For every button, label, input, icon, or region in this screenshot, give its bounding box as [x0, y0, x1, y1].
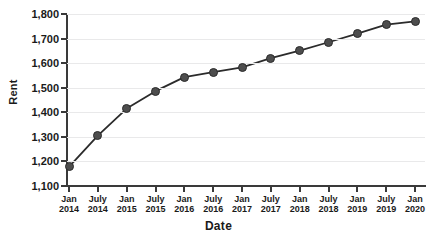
x-tick-mark: [68, 187, 70, 192]
x-axis-title: Date: [0, 219, 437, 233]
x-tick-mark: [270, 187, 272, 192]
x-tick-label: Jan2020: [393, 194, 437, 214]
y-tick-label: 1,300: [13, 131, 59, 143]
x-tick-mark: [328, 187, 330, 192]
data-point-marker: [180, 73, 189, 82]
x-tick-mark: [356, 187, 358, 192]
data-point-marker: [353, 29, 362, 38]
data-point-marker: [151, 87, 160, 96]
y-tick-label: 1,100: [13, 180, 59, 192]
gridline: [67, 39, 425, 40]
data-point-marker: [411, 17, 420, 26]
rent-over-time-line-chart: Rent 1,1001,2001,3001,4001,5001,6001,700…: [0, 0, 437, 240]
x-tick-mark: [97, 187, 99, 192]
y-tick-label: 1,200: [13, 155, 59, 167]
data-point-marker: [209, 68, 218, 77]
y-tick-mark: [61, 62, 67, 64]
x-tick-mark: [126, 187, 128, 192]
y-tick-mark: [61, 87, 67, 89]
gridline: [67, 161, 425, 162]
data-point-marker: [324, 38, 333, 47]
y-tick-mark: [61, 13, 67, 15]
y-tick-mark: [61, 185, 67, 187]
y-tick-mark: [61, 111, 67, 113]
data-point-marker: [65, 162, 74, 171]
gridline: [67, 14, 425, 15]
x-tick-mark: [414, 187, 416, 192]
x-tick-mark: [155, 187, 157, 192]
y-tick-label: 1,500: [13, 82, 59, 94]
plot-area: [67, 14, 425, 186]
y-tick-mark: [61, 136, 67, 138]
series-polyline: [69, 21, 415, 166]
gridline: [67, 112, 425, 113]
x-tick-mark: [183, 187, 185, 192]
x-tick-mark: [385, 187, 387, 192]
data-point-marker: [238, 63, 247, 72]
rent-series-line: [67, 14, 425, 186]
y-tick-label: 1,400: [13, 106, 59, 118]
x-tick-label-month: Jan: [393, 194, 437, 204]
y-tick-mark: [61, 38, 67, 40]
x-tick-label-year: 2020: [393, 204, 437, 214]
y-tick-label: 1,800: [13, 8, 59, 20]
gridline: [67, 137, 425, 138]
x-tick-mark: [212, 187, 214, 192]
x-tick-mark: [299, 187, 301, 192]
gridline: [67, 88, 425, 89]
x-tick-mark: [241, 187, 243, 192]
data-point-marker: [266, 54, 275, 63]
y-tick-label: 1,700: [13, 33, 59, 45]
y-tick-label: 1,600: [13, 57, 59, 69]
data-point-marker: [382, 20, 391, 29]
